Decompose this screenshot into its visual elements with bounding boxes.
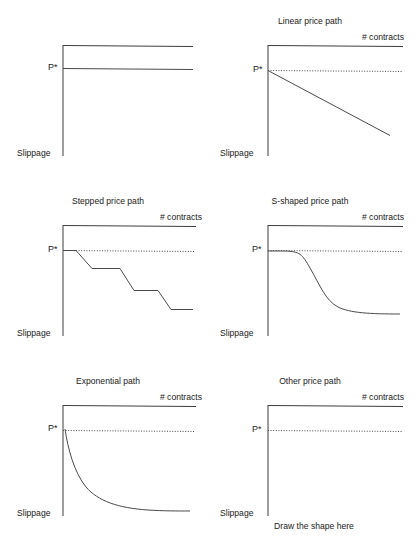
panel-title: S-shaped price path: [210, 197, 410, 206]
y-axis-label: Slippage: [220, 329, 253, 338]
x-axis-line: [268, 406, 403, 407]
price-path-curve: [63, 251, 193, 310]
draw-here-instruction: Draw the shape here: [214, 522, 414, 531]
panel-title: Other price path: [210, 377, 410, 386]
reference-level-label: P*: [48, 63, 58, 72]
x-axis-line: [268, 226, 403, 227]
x-axis-label: # contracts: [362, 393, 404, 402]
price-path-curve: [268, 71, 390, 136]
y-axis-label: Slippage: [17, 509, 50, 518]
x-axis-label: # contracts: [362, 213, 404, 222]
reference-level-label: P*: [253, 65, 263, 74]
y-axis-label: Slippage: [17, 329, 50, 338]
panel-flat: P* Slippage: [8, 4, 208, 184]
x-axis-line: [63, 226, 196, 227]
x-axis-label: # contracts: [160, 213, 202, 222]
reference-level-line-solid: [63, 69, 193, 70]
price-path-curve: [268, 251, 400, 314]
x-axis-line: [268, 46, 403, 47]
x-axis-line: [63, 46, 193, 47]
y-axis-label: Slippage: [17, 149, 50, 158]
panel-other[interactable]: Other price path # contracts P* Slippage…: [210, 364, 410, 544]
panel-title: Stepped price path: [8, 197, 208, 206]
reference-level-label: P*: [48, 245, 58, 254]
price-path-curve: [65, 429, 190, 511]
reference-level-line-dotted: [268, 431, 402, 432]
panel-stepped: Stepped price path # contracts P* Slippa…: [8, 184, 208, 364]
worksheet-sheet: P* Slippage Linear price path # contract…: [0, 0, 417, 550]
panel-title: Linear price path: [210, 17, 410, 26]
x-axis-label: # contracts: [362, 33, 404, 42]
price-path-panel-grid: P* Slippage Linear price path # contract…: [0, 0, 417, 550]
reference-level-line-dotted: [268, 71, 402, 72]
x-axis-line: [63, 406, 196, 407]
reference-level-line-dotted: [63, 431, 194, 432]
panel-linear: Linear price path # contracts P* Slippag…: [210, 4, 410, 184]
x-axis-label: # contracts: [160, 393, 202, 402]
panel-title: Exponential path: [8, 377, 208, 386]
panel-exponential: Exponential path # contracts P* Slippage: [8, 364, 208, 544]
reference-level-label: P*: [48, 424, 58, 433]
y-axis-label: Slippage: [220, 149, 253, 158]
reference-level-line-dotted: [63, 251, 194, 252]
reference-level-label: P*: [252, 425, 262, 434]
y-axis-label: Slippage: [220, 509, 253, 518]
reference-level-label: P*: [252, 245, 262, 254]
panel-s-shaped: S-shaped price path # contracts P* Slipp…: [210, 184, 410, 364]
